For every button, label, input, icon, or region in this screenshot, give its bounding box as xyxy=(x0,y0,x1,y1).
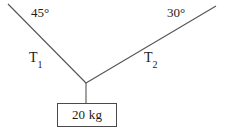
angle-right-label: 30° xyxy=(167,6,185,19)
right-rope-line xyxy=(86,6,216,83)
angle-left-label: 45° xyxy=(31,6,49,19)
tension-left-subscript: 1 xyxy=(38,59,43,70)
tension-right-label: T2 xyxy=(144,51,158,68)
mass-box-label: 20 kg xyxy=(58,104,116,126)
tension-right-subscript: 2 xyxy=(153,59,158,70)
physics-tension-diagram: 45° 30° T1 T2 20 kg xyxy=(0,0,227,131)
tension-right-symbol: T xyxy=(144,50,153,65)
mass-box: 20 kg xyxy=(57,103,117,127)
tension-left-label: T1 xyxy=(29,51,43,68)
tension-left-symbol: T xyxy=(29,50,38,65)
